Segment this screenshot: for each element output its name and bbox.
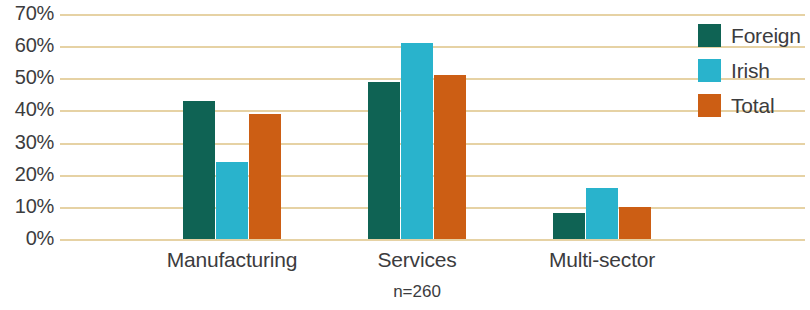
bar-series-container [60, 14, 805, 239]
legend-swatch [698, 59, 721, 82]
sample-size-note: n=260 [307, 282, 527, 301]
legend-item[interactable]: Total [698, 90, 810, 120]
bar-group [183, 14, 281, 239]
y-axis-tick-label: 30% [0, 132, 54, 152]
bar[interactable] [368, 82, 400, 240]
x-axis-category-label: Multi-sector [492, 248, 712, 272]
bar[interactable] [619, 207, 651, 239]
legend-item[interactable]: Foreign [698, 20, 810, 50]
y-axis: 70%60%50%40%30%20%10%0% [0, 0, 54, 310]
y-axis-tick-label: 10% [0, 196, 54, 216]
y-axis-tick-label: 20% [0, 164, 54, 184]
bar[interactable] [183, 101, 215, 239]
legend-label: Foreign [731, 24, 801, 47]
bar[interactable] [401, 43, 433, 239]
legend-item[interactable]: Irish [698, 55, 810, 85]
legend-swatch [698, 94, 721, 117]
y-axis-tick-label: 40% [0, 99, 54, 119]
bar[interactable] [434, 75, 466, 239]
bar[interactable] [586, 188, 618, 239]
y-axis-tick-label: 50% [0, 67, 54, 87]
bar-chart: 70%60%50%40%30%20%10%0% ManufacturingSer… [0, 0, 810, 310]
y-axis-tick-label: 70% [0, 3, 54, 23]
legend-label: Irish [731, 59, 770, 82]
y-axis-tick-label: 60% [0, 35, 54, 55]
legend-swatch [698, 24, 721, 47]
bar[interactable] [216, 162, 248, 239]
bar[interactable] [553, 213, 585, 239]
bar-group [368, 14, 466, 239]
bar-group [553, 14, 651, 239]
gridline [60, 239, 805, 241]
legend-label: Total [731, 94, 774, 117]
bar[interactable] [249, 114, 281, 239]
y-axis-tick-label: 0% [0, 228, 54, 248]
legend: ForeignIrishTotal [698, 20, 810, 125]
